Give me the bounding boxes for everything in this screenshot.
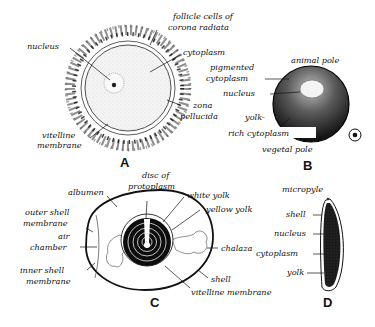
panel-a-mammalian-ovum: follicle cells of corona radiata nucleus… xyxy=(27,11,235,170)
label-yellow-yolk: yellow yolk xyxy=(205,204,252,214)
label-nucleus-a: nucleus xyxy=(27,41,59,51)
micropyle xyxy=(327,198,330,201)
label-vitelline-a1: vitelline xyxy=(42,130,76,140)
label-pigmented-cytoplasm: cytoplasm xyxy=(206,73,248,83)
label-micropyle: micropyle xyxy=(282,184,323,194)
yolk-rings xyxy=(123,218,171,266)
label-yolk: yolk- xyxy=(244,112,265,122)
panel-letter-c: C xyxy=(150,295,160,310)
panel-b-amphibian-egg: animal pole pigmented cytoplasm nucleus … xyxy=(206,55,361,173)
label-nucleus-d: nucleus xyxy=(274,228,306,238)
label-cytoplasm-d: cytoplasm xyxy=(256,248,298,258)
label-vegetal-pole: vegetal pole xyxy=(262,144,313,154)
label-pigmented: pigmented xyxy=(210,62,254,72)
egg-types-diagram: follicle cells of corona radiata nucleus… xyxy=(0,0,375,327)
label-cytoplasm-a: cytoplasm xyxy=(183,47,225,57)
panel-letter-b: B xyxy=(303,158,312,173)
label-outer-shell: outer shell xyxy=(25,207,70,217)
label-albumen: albumen xyxy=(68,187,104,197)
label-corona-radiata: corona radiata xyxy=(168,22,229,32)
label-inner-membrane: membrane xyxy=(26,276,71,286)
label-zona: zona xyxy=(192,100,213,110)
label-inner-shell: inner shell xyxy=(20,265,64,275)
label-disc-of: disc of xyxy=(142,170,171,180)
label-protoplasm: protoplasm xyxy=(128,181,175,191)
panel-letter-a: A xyxy=(120,155,130,170)
label-air: air xyxy=(58,231,70,241)
label-shell-d: shell xyxy=(286,209,306,219)
label-vitelline-c: vitelline membrane xyxy=(191,287,272,297)
circled-dot-icon xyxy=(349,129,361,141)
label-vitelline-a2: membrane xyxy=(37,140,82,150)
label-air-chamber: chamber xyxy=(30,242,68,252)
label-white-yolk: white yolk xyxy=(187,190,230,200)
label-nucleus-b: nucleus xyxy=(223,88,255,98)
panel-c-bird-egg: disc of protoplasm albumen white yolk ye… xyxy=(20,170,272,310)
label-animal-pole: animal pole xyxy=(291,55,339,65)
panel-letter-d: D xyxy=(323,295,332,310)
label-follicle-cells: follicle cells of xyxy=(172,11,235,21)
label-pellucida: pellucida xyxy=(180,111,218,121)
cytoplasm xyxy=(85,45,171,131)
label-chalaza: chalaza xyxy=(221,243,253,253)
label-outer-membrane: membrane xyxy=(23,218,68,228)
nucleus xyxy=(300,80,324,98)
label-yolk-d: yolk xyxy=(286,267,304,277)
label-rich-cytoplasm: rich cytoplasm xyxy=(228,128,289,138)
label-shell-c: shell xyxy=(211,274,231,284)
